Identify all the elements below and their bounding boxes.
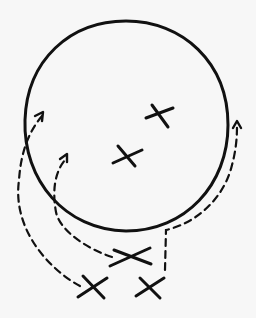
arrow-middle (54, 154, 112, 257)
arrow-left-outer (18, 112, 80, 286)
outside-cross-left (78, 276, 107, 298)
outside-cross-right (136, 278, 164, 298)
inside-cross-2 (113, 146, 142, 166)
outside-cross-large (110, 248, 151, 266)
diagram-canvas (0, 0, 256, 318)
inside-cross-1 (146, 105, 173, 127)
